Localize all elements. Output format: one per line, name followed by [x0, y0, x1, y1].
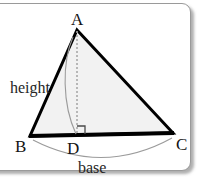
figure-root: A B C D height base — [0, 0, 209, 183]
vertex-label-a: A — [71, 11, 83, 28]
vertex-label-d: D — [67, 140, 79, 157]
vertex-label-b: B — [15, 138, 26, 155]
vertex-label-c: C — [176, 136, 187, 153]
triangle-abc-shape — [30, 30, 173, 136]
base-arc-curve — [33, 138, 172, 158]
base-label: base — [78, 160, 106, 176]
height-label: height — [10, 80, 50, 96]
